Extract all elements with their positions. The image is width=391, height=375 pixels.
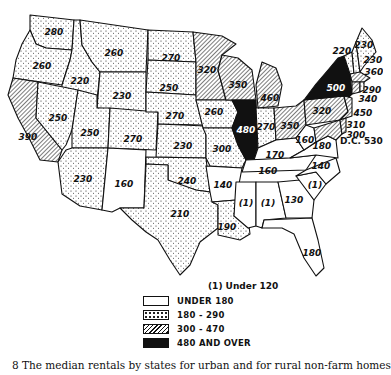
label-SD: 250 <box>160 83 179 93</box>
label-GA: 130 <box>285 195 304 205</box>
label-MO: 300 <box>213 144 232 154</box>
label-MT: 260 <box>105 48 124 58</box>
stipple-swatch-icon <box>143 310 169 320</box>
label-WI: 350 <box>229 80 248 90</box>
dc-label: D.C. 530 <box>340 136 383 146</box>
label-OK: 240 <box>178 176 197 186</box>
state-FL <box>262 218 324 276</box>
label-ME: 230 <box>355 40 374 50</box>
label-CO: 270 <box>124 134 143 144</box>
label-NV: 250 <box>49 113 68 123</box>
label-LA: 190 <box>218 222 237 232</box>
label-PA: 320 <box>313 106 332 116</box>
label-TX: 210 <box>171 209 190 219</box>
label-KY: 170 <box>266 150 285 160</box>
label-MI: 460 <box>260 93 280 103</box>
label-OR: 260 <box>33 61 52 71</box>
label-KS: 230 <box>174 141 193 151</box>
label-NC: 140 <box>312 161 331 171</box>
label-ND: 270 <box>162 53 181 63</box>
label-MA: 360 <box>365 67 383 77</box>
label-AR: 140 <box>214 180 233 190</box>
label-IL: 480 <box>236 125 256 135</box>
label-WY: 230 <box>113 91 132 101</box>
state-WI <box>218 55 256 100</box>
blank-swatch-icon <box>143 296 169 306</box>
state-NY <box>304 56 352 100</box>
state-CT <box>352 82 360 94</box>
label-UT: 250 <box>81 128 100 138</box>
legend: UNDER 180 180 - 290 300 - 470 480 AND OV… <box>143 294 251 350</box>
legend-item-under-180: UNDER 180 <box>143 294 251 307</box>
legend-item-300-470: 300 - 470 <box>143 322 251 335</box>
label-IA: 260 <box>205 107 224 117</box>
label-FL: 180 <box>303 248 322 258</box>
label-WV: 160 <box>296 135 315 145</box>
label-IN: 270 <box>257 122 276 132</box>
label-VA: 180 <box>313 141 332 151</box>
label-CT: 340 <box>359 94 378 104</box>
legend-item-180-290: 180 - 290 <box>143 308 251 321</box>
figure-caption: 8 The median rentals by states for urban… <box>12 359 391 371</box>
label-WA: 280 <box>45 27 64 37</box>
label-DE: 310 <box>347 120 366 130</box>
label-TN: 160 <box>259 166 278 176</box>
label-ID: 220 <box>71 76 90 86</box>
label-NY: 500 <box>327 83 346 93</box>
label-NH: 230 <box>364 55 383 65</box>
legend-item-480-over: 480 AND OVER <box>143 336 251 349</box>
label-AZ: 230 <box>74 174 93 184</box>
hatch-swatch-icon <box>143 324 169 334</box>
label-NE: 270 <box>166 111 185 121</box>
label-CA: 390 <box>19 132 38 142</box>
label-NM: 160 <box>115 179 134 189</box>
label-MS: (1) <box>239 198 254 208</box>
label-SC: (1) <box>308 180 323 190</box>
label-VT: 220 <box>333 46 352 56</box>
label-AL: (1) <box>261 198 276 208</box>
label-NJ: 450 <box>353 108 373 118</box>
label-OH: 350 <box>281 121 300 131</box>
label-MN: 320 <box>198 65 217 75</box>
footnote: (1) Under 120 <box>208 281 278 291</box>
solid-swatch-icon <box>143 338 169 348</box>
us-rental-map: 280 260 390 220 250 260 230 250 230 270 … <box>0 0 383 300</box>
state-ME <box>356 28 376 72</box>
